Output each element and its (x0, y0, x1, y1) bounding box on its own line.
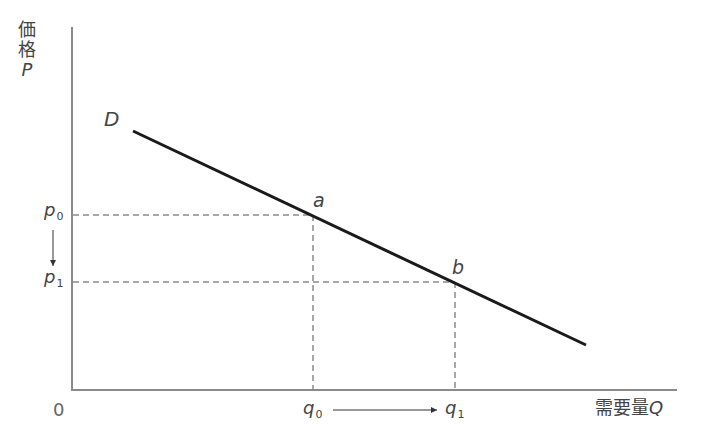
quantity-q0-label: q0 (303, 399, 322, 417)
quantity-q1-subscript: 1 (457, 408, 464, 421)
x-axis-symbol: Q (649, 397, 663, 418)
quantity-q1-label: q1 (445, 399, 464, 417)
point-label-a: a (313, 191, 325, 210)
point-label-b: b (452, 258, 464, 277)
price-p1-symbol: p (44, 266, 55, 287)
quantity-q0-subscript: 0 (315, 408, 322, 421)
price-p1-label: p1 (44, 268, 63, 286)
x-axis-label: 需要量Q (595, 399, 663, 417)
quantity-q1-symbol: q (445, 397, 456, 418)
y-axis-label: 価 格 P (17, 20, 37, 80)
curve-label-d: D (104, 109, 119, 129)
y-axis-label-char-2: 格 (17, 40, 37, 60)
price-p0-subscript: 0 (56, 210, 63, 223)
demand-curve (133, 131, 586, 345)
origin-label: 0 (53, 401, 64, 419)
price-p0-symbol: p (44, 199, 55, 220)
diagram-canvas (0, 0, 717, 448)
x-axis-label-text: 需要量 (595, 397, 649, 418)
price-p0-label: p0 (44, 201, 63, 219)
y-axis-label-char-1: 価 (17, 20, 37, 40)
y-axis-symbol: P (17, 60, 37, 80)
price-p1-subscript: 1 (56, 277, 63, 290)
quantity-q0-symbol: q (303, 397, 314, 418)
